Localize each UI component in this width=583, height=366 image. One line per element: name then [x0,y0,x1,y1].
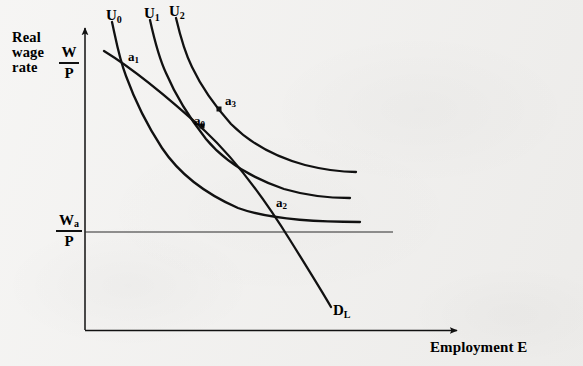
curve-u2 [176,18,356,172]
curve-label-demand-labour: DL [333,303,351,318]
diagram-plot [0,0,583,366]
point-label-a2: a2 [276,196,287,209]
curve-label-u1: U1 [144,6,160,21]
point-label-a1-subscript: 1 [135,55,140,65]
reference-wage-numerator: Wa [56,213,82,229]
figure-canvas: Real wage rate W P Wa P U0 U1 U2 DL a1 a… [0,0,583,366]
curve-label-u0-base: U [106,7,117,23]
point-label-a0-base: a [194,113,201,128]
point-label-a3-subscript: 3 [232,99,237,109]
reference-wage-numerator-subscript: a [74,218,79,229]
point-label-a0-subscript: 0 [201,119,206,129]
fraction-bar [56,230,82,232]
curve-label-u0: U0 [106,8,122,23]
reference-wage-numerator-base: W [59,212,74,228]
y-axis-caption-line-2: wage [12,45,44,60]
point-label-a1: a1 [128,50,139,63]
point-label-a2-base: a [276,195,283,210]
x-axis-title: Employment E [430,340,527,355]
curve-label-u0-subscript: 0 [117,14,122,25]
curve-label-dl-base: D [333,302,344,318]
y-axis-caption-line-3: rate [12,60,38,75]
curve-u0 [112,22,360,222]
curve-label-dl-subscript: L [344,309,351,320]
curve-label-u2: U2 [169,4,185,19]
curve-demand-labour [104,51,331,307]
y-axis-caption-line-1: Real [12,30,41,45]
point-label-a2-subscript: 2 [283,201,288,211]
curve-label-u1-subscript: 1 [155,12,160,23]
point-marker-a3 [217,107,222,112]
curve-label-u2-subscript: 2 [180,10,185,21]
point-label-a1-base: a [128,49,135,64]
reference-wage-denominator: P [56,233,82,249]
point-label-a3-base: a [225,93,232,108]
curve-label-u1-base: U [144,5,155,21]
y-axis-symbol-denominator: P [59,65,79,81]
y-axis-symbol-numerator: W [59,45,79,61]
point-label-a3: a3 [225,94,236,107]
reference-wage-fraction: Wa P [56,213,82,249]
y-axis-symbol-fraction: W P [59,45,79,81]
point-label-a0: a0 [194,114,205,127]
curve-label-u2-base: U [169,3,180,19]
fraction-bar [59,62,79,64]
